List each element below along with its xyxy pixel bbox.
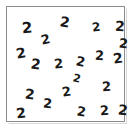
digit-glyph: 2 [61,84,72,98]
digit-glyph: 2 [117,102,128,117]
digit-glyph: 2 [24,87,35,102]
digit-glyph: 2 [76,104,87,118]
digit-glyph: 2 [40,32,52,47]
digit-glyph: 2 [91,21,101,34]
digit-glyph: 2 [21,21,32,37]
stimulus-panel: 222222222222222222222 [6,6,125,122]
digit-glyph: 2 [102,80,112,93]
digit-glyph: 2 [15,45,27,60]
stimulus-canvas: 222222222222222222222 [0,0,132,133]
digit-glyph: 2 [118,37,128,51]
digit-glyph: 2 [115,19,126,34]
digit-glyph: 2 [75,54,87,69]
digit-glyph: 2 [100,104,110,118]
digit-glyph: 2 [30,56,42,71]
digit-glyph: 2 [53,57,63,71]
digit-glyph: 2 [72,72,82,85]
digit-glyph: 2 [59,14,71,29]
digit-glyph: 2 [15,105,26,120]
digit-glyph: 2 [112,50,124,65]
digit-glyph: 2 [95,49,105,62]
digit-glyph: 2 [42,97,52,111]
